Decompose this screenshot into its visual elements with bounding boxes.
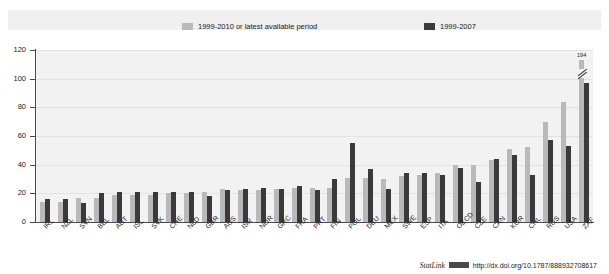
- bar-series-container: 194: [36, 50, 593, 222]
- bar-group: [94, 50, 104, 222]
- bar-group: [274, 50, 284, 222]
- dark-grey-swatch-icon: [424, 23, 435, 30]
- statlink-url[interactable]: http://dx.doi.org/10.1787/888932708617: [473, 262, 597, 269]
- bar-group: [292, 50, 302, 222]
- legend-label-1999-2007: 1999-2007: [440, 23, 476, 31]
- bar-group: [417, 50, 427, 222]
- axis-break-marker-icon: [578, 69, 587, 78]
- bar: [368, 169, 373, 222]
- bar: [332, 179, 337, 222]
- bar: [494, 159, 499, 222]
- bar-group: [435, 50, 445, 222]
- y-axis-label: 0: [4, 218, 26, 226]
- bar-group: [543, 50, 553, 222]
- bar: [548, 140, 553, 222]
- y-axis-label: 100: [4, 75, 26, 83]
- bar-value-label: 194: [577, 53, 586, 59]
- bar: [440, 175, 445, 222]
- bar-group: [507, 50, 517, 222]
- bar-group: [525, 50, 535, 222]
- chart-footer: StatLink http://dx.doi.org/10.1787/88893…: [0, 258, 609, 272]
- bar-group: [148, 50, 158, 222]
- bar: [422, 173, 427, 222]
- legend-item-1999-2010: 1999-2010 or latest available period: [182, 23, 317, 31]
- bar-group: [112, 50, 122, 222]
- bar: [350, 143, 355, 222]
- bar-group: [130, 50, 140, 222]
- legend-item-1999-2007: 1999-2007: [424, 23, 476, 31]
- bar-group: [202, 50, 212, 222]
- bar-group: [345, 50, 355, 222]
- bar: [512, 155, 517, 222]
- chart-figure: 1999-2010 or latest available period 199…: [0, 0, 609, 274]
- bar: [530, 175, 535, 222]
- bar-group: [40, 50, 50, 222]
- bar: [566, 146, 571, 222]
- bar-group: [184, 50, 194, 222]
- y-axis-label: 60: [4, 132, 26, 140]
- bar-group: [471, 50, 481, 222]
- light-grey-swatch-icon: [182, 23, 193, 30]
- bar: [404, 173, 409, 222]
- bar-group: [327, 50, 337, 222]
- bar: [584, 83, 589, 222]
- bar-group: [489, 50, 499, 222]
- legend-label-1999-2010: 1999-2010 or latest available period: [198, 23, 317, 31]
- x-axis-labels: IRLNZLSVNBELAUTISLSVKCHENLDGBRAUSISRNORG…: [36, 223, 593, 257]
- y-axis-label: 120: [4, 46, 26, 54]
- chart-legend: 1999-2010 or latest available period 199…: [8, 10, 601, 30]
- bar-group: [256, 50, 266, 222]
- bar-group: [310, 50, 320, 222]
- bar-group: [381, 50, 391, 222]
- y-axis-label: 80: [4, 103, 26, 111]
- bar-group: [166, 50, 176, 222]
- bar-group: [76, 50, 86, 222]
- statlink-barcode-icon: [449, 262, 469, 268]
- bar-group: 194: [579, 50, 589, 222]
- bar-group: [238, 50, 248, 222]
- bar-group: [561, 50, 571, 222]
- y-axis-label: 20: [4, 189, 26, 197]
- bar-group: [220, 50, 230, 222]
- y-axis-label: 40: [4, 161, 26, 169]
- bar-group: [453, 50, 463, 222]
- bar-group: [58, 50, 68, 222]
- bar-group: [363, 50, 373, 222]
- statlink-label: StatLink: [420, 261, 445, 270]
- bar-group: [399, 50, 409, 222]
- bar: [458, 168, 463, 222]
